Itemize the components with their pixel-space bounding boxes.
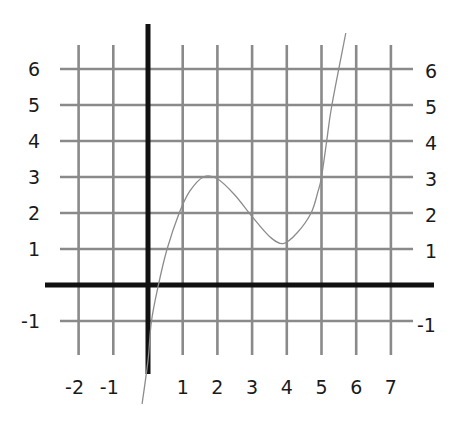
x-tick-label: -2	[65, 376, 84, 398]
y-tick-labels-right: 654321-1	[417, 60, 437, 336]
x-tick-label: 1	[177, 376, 189, 398]
x-tick-label: 7	[385, 376, 397, 398]
y-tick-label-right: 4	[425, 132, 437, 154]
x-tick-label: 6	[350, 376, 362, 398]
y-tick-label-right: 5	[425, 96, 437, 118]
y-tick-label-left: 1	[28, 238, 40, 260]
x-tick-label: -1	[100, 376, 119, 398]
y-tick-label-left: 5	[28, 94, 40, 116]
y-tick-label-left: 2	[28, 202, 40, 224]
x-tick-label: 3	[246, 376, 258, 398]
y-tick-label-left: 3	[28, 166, 40, 188]
y-tick-label-left: 6	[28, 58, 40, 80]
x-tick-label: 5	[315, 376, 327, 398]
x-tick-label: 2	[211, 376, 223, 398]
function-curve	[142, 33, 346, 404]
function-graph: -2-11234567 654321-1 654321-1	[0, 0, 459, 426]
y-tick-label-right: 6	[425, 60, 437, 82]
y-tick-label-right: 1	[425, 240, 437, 262]
y-tick-label-right: 3	[425, 168, 437, 190]
y-tick-label-left: -1	[21, 310, 40, 332]
grid-lines	[60, 45, 413, 355]
y-tick-labels-left: 654321-1	[21, 58, 40, 332]
y-tick-label-right: 2	[425, 204, 437, 226]
x-tick-label: 4	[281, 376, 293, 398]
x-tick-labels: -2-11234567	[65, 376, 397, 398]
y-tick-label-left: 4	[28, 130, 40, 152]
y-tick-label-right: -1	[417, 314, 436, 336]
